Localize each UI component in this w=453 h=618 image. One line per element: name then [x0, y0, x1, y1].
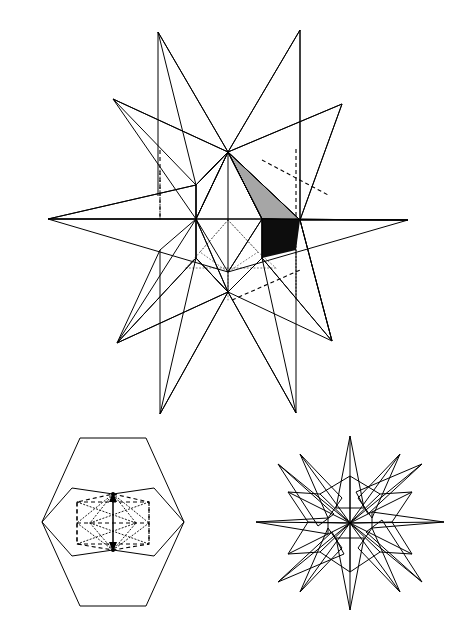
main-figure-background	[0, 0, 453, 430]
figure-star-outline	[252, 432, 448, 614]
figure-main-stellation	[0, 0, 453, 430]
figure-hexagon-projection	[18, 432, 208, 612]
plate-canvas	[0, 0, 453, 618]
